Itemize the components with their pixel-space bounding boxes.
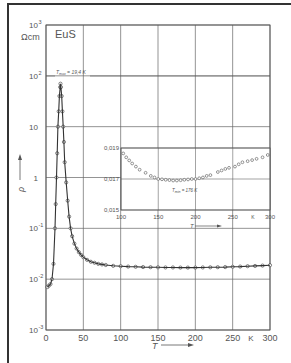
- svg-text:10: 10: [29, 224, 38, 233]
- svg-text:200: 200: [190, 214, 201, 220]
- svg-text:-1: -1: [39, 222, 44, 228]
- svg-text:10: 10: [29, 123, 38, 132]
- svg-text:0,015: 0,015: [104, 207, 120, 213]
- svg-text:Tmax = 19,4 K: Tmax = 19,4 K: [56, 69, 87, 76]
- svg-text:150: 150: [153, 214, 164, 220]
- svg-text:ρ: ρ: [16, 187, 26, 193]
- material-label: EuS: [55, 28, 76, 40]
- svg-text:250: 250: [228, 214, 239, 220]
- svg-text:50: 50: [78, 333, 88, 343]
- y-unit-label: Ωcm: [21, 32, 40, 42]
- svg-text:K: K: [248, 334, 254, 343]
- svg-text:1: 1: [34, 174, 39, 183]
- svg-text:10: 10: [29, 21, 38, 30]
- svg-text:300: 300: [262, 333, 277, 343]
- svg-text:2: 2: [39, 70, 42, 76]
- svg-text:250: 250: [225, 333, 240, 343]
- svg-text:0,017: 0,017: [104, 176, 120, 182]
- svg-text:100: 100: [116, 214, 127, 220]
- svg-text:300: 300: [265, 214, 276, 220]
- svg-text:0,019: 0,019: [104, 145, 120, 151]
- svg-text:-2: -2: [39, 273, 44, 279]
- svg-text:100: 100: [113, 333, 128, 343]
- svg-text:K: K: [251, 214, 255, 220]
- y-axis-label: ρ: [16, 154, 26, 193]
- svg-text:0: 0: [43, 333, 48, 343]
- svg-text:3: 3: [39, 19, 42, 25]
- svg-text:200: 200: [188, 333, 203, 343]
- svg-text:10: 10: [29, 275, 38, 284]
- svg-text:10: 10: [29, 326, 38, 335]
- svg-text:10: 10: [29, 72, 38, 81]
- svg-text:-3: -3: [39, 324, 44, 330]
